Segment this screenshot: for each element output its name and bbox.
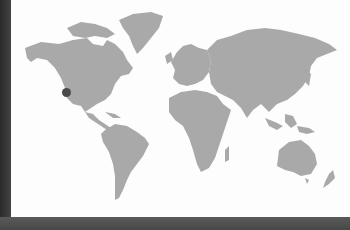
- south-america: [101, 124, 149, 200]
- new-guinea: [297, 126, 315, 134]
- madagascar: [225, 146, 229, 162]
- tasmania: [305, 178, 309, 184]
- location-marker[interactable]: [62, 88, 71, 97]
- new-zealand: [323, 170, 335, 188]
- central-america: [85, 112, 111, 130]
- asia: [207, 28, 337, 118]
- map-paper: [11, 0, 350, 217]
- photo-frame-bottom: [0, 217, 350, 230]
- arctic-islands: [67, 22, 115, 38]
- borneo: [285, 114, 297, 128]
- world-map: [11, 0, 350, 217]
- australia: [277, 140, 317, 176]
- greenland: [119, 12, 163, 54]
- caribbean: [105, 112, 121, 118]
- europe: [171, 44, 211, 86]
- photo-frame-left: [0, 0, 11, 230]
- africa: [169, 90, 231, 172]
- north-america: [25, 38, 133, 112]
- indonesia: [265, 118, 283, 130]
